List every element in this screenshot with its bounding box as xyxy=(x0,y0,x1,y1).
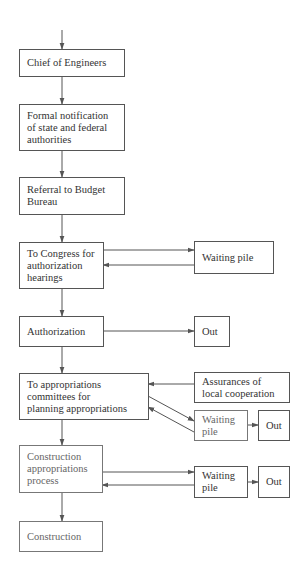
node-chief-of-engineers: Chief of Engineers xyxy=(19,49,125,77)
flowchart-canvas: Chief of Engineers Formal notification o… xyxy=(0,0,304,576)
node-label: Formal notification of state and federal… xyxy=(27,110,108,146)
node-label: Out xyxy=(266,476,282,488)
node-construction-appropriations-process: Construction appropriations process xyxy=(19,445,103,493)
node-label: Construction xyxy=(27,531,81,543)
node-label: Waiting pile xyxy=(202,414,235,438)
node-to-congress: To Congress for authorization hearings xyxy=(19,242,104,289)
node-assurances-local-cooperation: Assurances of local cooperation xyxy=(194,372,290,403)
node-out-2: Out xyxy=(258,410,290,441)
arrow-appropriations-to-waiting2 xyxy=(148,396,194,421)
node-label: Authorization xyxy=(27,326,85,338)
node-label: Referral to Budget Bureau xyxy=(27,184,105,208)
node-out-3: Out xyxy=(258,466,290,498)
node-label: Waiting pile xyxy=(202,252,253,264)
node-waiting-pile-1: Waiting pile xyxy=(194,241,274,274)
node-label: Construction appropriations process xyxy=(27,451,88,487)
node-label: Chief of Engineers xyxy=(27,57,106,69)
node-referral-budget-bureau: Referral to Budget Bureau xyxy=(19,177,125,215)
node-label: To Congress for authorization hearings xyxy=(27,248,95,284)
node-label: To appropriations committees for plannin… xyxy=(27,379,127,415)
node-waiting-pile-2: Waiting pile xyxy=(194,410,248,441)
node-label: Assurances of local cooperation xyxy=(202,376,275,400)
node-construction: Construction xyxy=(19,521,103,552)
node-out-1: Out xyxy=(194,316,230,347)
node-label: Out xyxy=(266,420,282,432)
arrow-waiting2-to-appropriations xyxy=(148,407,194,432)
node-waiting-pile-3: Waiting pile xyxy=(194,466,248,498)
node-label: Waiting pile xyxy=(202,470,235,494)
node-appropriations-committees: To appropriations committees for plannin… xyxy=(19,373,149,420)
node-label: Out xyxy=(202,326,218,338)
node-formal-notification: Formal notification of state and federal… xyxy=(19,104,125,151)
node-authorization: Authorization xyxy=(19,316,104,347)
